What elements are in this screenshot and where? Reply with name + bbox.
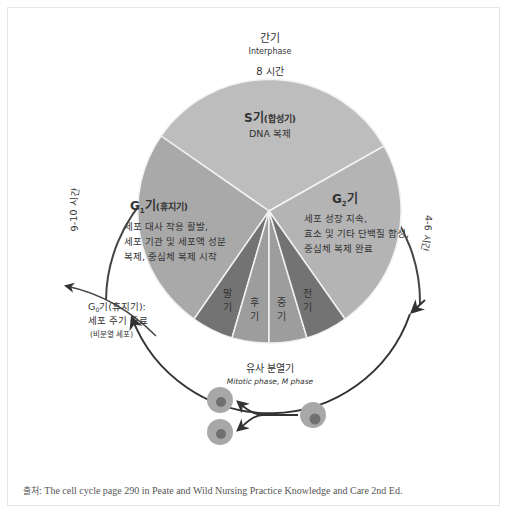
cell-division-illustration <box>207 387 326 445</box>
mitotic-title-en: Mitotic phase, M phase <box>227 377 314 386</box>
g1-desc-line-3: 복제, 중심체 복제 시작 <box>124 251 217 262</box>
cell-cycle-diagram: 간기 Interphase 8 시간 S기(합성기) DNA 복제 G1기(휴지… <box>0 0 508 519</box>
g1-duration: 9-10 시간 <box>68 187 81 232</box>
g1-desc-line-2: 세포 기관 및 세포액 성분 <box>124 236 226 247</box>
s-phase-label: S기 <box>244 110 264 125</box>
interphase-title-en: Interphase <box>249 47 292 56</box>
daughter-nucleus-top <box>216 397 226 407</box>
g0-line-3: (비분열 세포) <box>90 330 133 339</box>
prophase-label-bottom: 기 <box>303 302 312 313</box>
caption-text: : The cell cycle page 290 in Peate and W… <box>39 485 402 496</box>
interphase-title-ko: 간기 <box>260 32 280 45</box>
telophase-label-top: 말 <box>223 288 232 299</box>
mitotic-ring-arrow-right <box>412 300 425 312</box>
metaphase-label-top: 중 <box>277 297 286 308</box>
division-arrow-down <box>238 415 262 430</box>
telophase-label-bottom: 기 <box>223 302 232 313</box>
prophase-label-top: 전 <box>303 288 312 299</box>
s-phase-sub: (합성기) <box>264 113 296 124</box>
caption-prefix: 출처 <box>23 486 39 496</box>
metaphase-label-bottom: 기 <box>277 311 286 322</box>
g2-duration: 4-6 시간 <box>419 215 434 253</box>
g2-desc-line-1: 세포 성장 지속, <box>304 213 367 224</box>
mitotic-title-ko: 유사 분열기 <box>246 363 294 374</box>
source-caption: 출처: The cell cycle page 290 in Peate and… <box>23 484 402 497</box>
s-duration: 8 시간 <box>256 66 284 77</box>
g2-desc-line-3: 중심체 복제 완료 <box>304 243 373 254</box>
anaphase-label-top: 후 <box>250 297 259 308</box>
g2-desc-line-2: 효소 및 기타 단백질 합성, <box>304 228 409 239</box>
g0-line-2: 세포 주기 종료 <box>88 315 148 326</box>
g1-desc-line-1: 세포 대사 작용 활발, <box>124 221 208 232</box>
daughter-nucleus-bottom <box>216 429 226 439</box>
anaphase-label-bottom: 기 <box>250 311 259 322</box>
parent-nucleus <box>310 414 321 425</box>
s-phase-desc: DNA 복제 <box>249 128 291 139</box>
g0-title: G0기(휴지기): <box>88 301 146 313</box>
